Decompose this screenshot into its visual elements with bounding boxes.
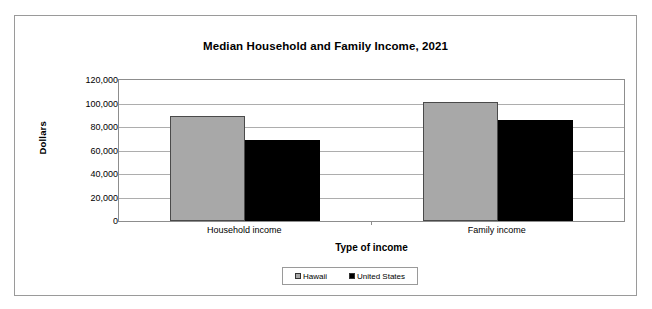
y-axis-tick-label: 60,000 bbox=[58, 146, 118, 156]
y-axis-tick-label: 120,000 bbox=[58, 75, 118, 85]
bar-hawaii-family-income bbox=[423, 102, 498, 221]
gridline bbox=[119, 104, 624, 105]
legend-item-united-states: United States bbox=[349, 272, 405, 281]
legend-label: United States bbox=[357, 272, 405, 281]
legend-item-hawaii: Hawaii bbox=[295, 272, 327, 281]
plot-area bbox=[118, 79, 625, 222]
chart-frame: Median Household and Family Income, 2021… bbox=[14, 15, 637, 296]
bar-hawaii-household-income bbox=[170, 116, 245, 221]
legend-swatch-icon bbox=[295, 273, 301, 279]
y-axis-tick-label: 20,000 bbox=[58, 193, 118, 203]
y-axis-tick-label: 80,000 bbox=[58, 122, 118, 132]
chart-legend: HawaiiUnited States bbox=[282, 267, 418, 285]
x-axis-tick-label: Family income bbox=[468, 225, 526, 235]
legend-swatch-icon bbox=[349, 273, 355, 279]
legend-label: Hawaii bbox=[303, 272, 327, 281]
y-axis-tick-labels: 020,00040,00060,00080,000100,000120,000 bbox=[50, 79, 118, 222]
y-axis-title: Dollars bbox=[37, 121, 48, 155]
chart-title: Median Household and Family Income, 2021 bbox=[15, 40, 636, 52]
y-axis-tick-label: 0 bbox=[58, 216, 118, 226]
x-axis-title: Type of income bbox=[118, 242, 625, 253]
bar-united-states-family-income bbox=[498, 120, 573, 221]
x-axis-tick-label: Household income bbox=[207, 225, 282, 235]
x-axis-tick-mark bbox=[371, 221, 372, 225]
bar-united-states-household-income bbox=[245, 140, 320, 221]
y-axis-tick-label: 40,000 bbox=[58, 169, 118, 179]
x-axis-tick-labels: Household incomeFamily income bbox=[118, 225, 625, 239]
y-axis-tick-label: 100,000 bbox=[58, 99, 118, 109]
